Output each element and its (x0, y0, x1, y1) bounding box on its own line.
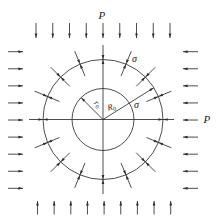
arrowhead-icon (123, 64, 126, 69)
arrowhead-icon (18, 119, 23, 122)
arrowhead-icon (18, 170, 23, 173)
arrowhead-icon (102, 60, 105, 65)
arrowhead-icon (102, 180, 105, 185)
diagram-geometry (8, 23, 198, 215)
label-load-top: P (98, 9, 106, 21)
arrowhead-icon (163, 118, 168, 121)
label-load-right: P (203, 113, 211, 125)
arrowhead-icon (158, 142, 163, 145)
arrowhead-icon (102, 55, 105, 60)
arrowhead-icon (18, 67, 23, 70)
arrowhead-icon (154, 97, 159, 100)
arrowhead-icon (135, 33, 138, 38)
arrowhead-icon (119, 201, 122, 206)
arrowhead-icon (152, 33, 155, 38)
outer-radius-subscript: 0 (112, 105, 116, 111)
arrowhead-icon (48, 139, 53, 142)
label-stress-interface: σ (134, 99, 140, 110)
arrowhead-icon (183, 67, 188, 70)
stress-diagram: P P σ σ r0 R0 (0, 0, 216, 220)
arrowhead-icon (36, 201, 39, 206)
arrowhead-icon (51, 33, 54, 38)
arrowhead-icon (48, 97, 53, 100)
arrowhead-icon (18, 102, 23, 105)
arrowhead-icon (85, 33, 88, 38)
arrowhead-icon (183, 119, 188, 122)
arrowhead-icon (183, 187, 188, 190)
arrowhead-icon (18, 187, 23, 190)
arrowhead-icon (118, 33, 121, 38)
arrowhead-icon (183, 136, 188, 139)
arrowhead-icon (103, 201, 106, 206)
arrowhead-icon (126, 175, 129, 180)
arrowhead-icon (169, 33, 172, 38)
arrowhead-icon (43, 118, 48, 121)
arrowhead-icon (183, 170, 188, 173)
arrowhead-icon (183, 85, 188, 88)
arrowhead-icon (38, 118, 43, 121)
arrowhead-icon (169, 201, 172, 206)
arrowhead-icon (153, 201, 156, 206)
arrowhead-icon (43, 94, 48, 97)
label-stress-outer: σ (132, 53, 138, 64)
arrowhead-icon (77, 175, 80, 180)
arrowhead-icon (183, 50, 188, 53)
arrowhead-icon (35, 33, 38, 38)
arrowhead-icon (68, 33, 71, 38)
arrowhead-icon (53, 201, 56, 206)
arrowhead-icon (69, 201, 72, 206)
arrowhead-icon (102, 175, 105, 180)
arrowhead-icon (86, 201, 89, 206)
label-inner-radius: r0 (92, 98, 104, 110)
arrowhead-icon (18, 153, 23, 156)
arrowhead-icon (43, 142, 48, 145)
arrowhead-icon (158, 94, 163, 97)
arrowhead-icon (77, 59, 80, 64)
arrowhead-icon (136, 201, 139, 206)
arrowhead-icon (18, 136, 23, 139)
arrowhead-icon (149, 88, 154, 92)
arrowhead-icon (154, 139, 159, 142)
arrowhead-icon (183, 153, 188, 156)
arrowhead-icon (80, 64, 83, 69)
arrowhead-icon (123, 170, 126, 175)
arrowhead-icon (102, 33, 105, 38)
arrowhead-icon (18, 85, 23, 88)
arrowhead-icon (80, 170, 83, 175)
arrowhead-icon (126, 59, 129, 64)
label-outer-radius: R0 (105, 101, 116, 113)
arrowhead-icon (158, 118, 163, 121)
arrowhead-icon (18, 50, 23, 53)
arrowhead-icon (183, 102, 188, 105)
